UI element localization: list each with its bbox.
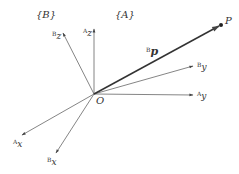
label-Az: Az <box>82 27 92 38</box>
label-Bp: Bp <box>146 45 158 58</box>
label-Ay: Ay <box>196 90 207 101</box>
label-By: By <box>197 61 207 72</box>
vector-Bp <box>94 26 219 94</box>
axis-By <box>94 66 193 94</box>
frame-A-label: {A} <box>115 9 135 20</box>
frame-transformation-diagram: {B} {A} Az Bz Ay By Ax Bx Bp O P <box>0 0 239 174</box>
point-P <box>219 23 223 27</box>
axis-Bz <box>63 33 94 94</box>
label-Ax: Ax <box>12 138 22 149</box>
frame-B-label: {B} <box>36 9 56 20</box>
point-P-label: P <box>224 15 232 26</box>
label-Bx: Bx <box>47 156 57 167</box>
axis-Bx <box>56 94 94 153</box>
axis-Ax <box>22 94 94 135</box>
origin-label: O <box>96 95 104 106</box>
label-Bz: Bz <box>52 30 61 41</box>
axis-Ay <box>94 94 193 95</box>
